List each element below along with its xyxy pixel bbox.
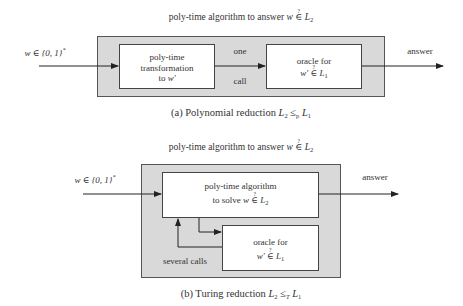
- caption-b: (b) Turing reduction L2 ≤T L1: [97, 288, 385, 300]
- arrows-b: [0, 0, 463, 306]
- caption-b-text: (b) Turing reduction: [181, 288, 266, 299]
- caption-b-math: L2 ≤T L1: [268, 288, 301, 299]
